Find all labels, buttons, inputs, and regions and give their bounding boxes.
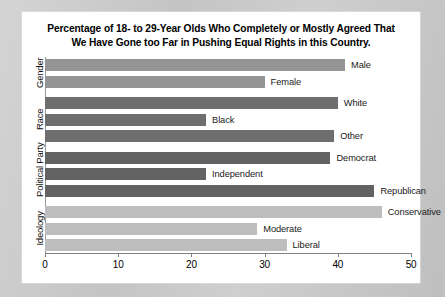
x-tick-label: 10 <box>113 259 124 270</box>
x-tick-label: 20 <box>186 259 197 270</box>
bar-white[interactable] <box>45 97 338 109</box>
bar-democrat[interactable] <box>45 152 330 164</box>
bar-label-liberal: Liberal <box>293 240 320 250</box>
bar-label-male: Male <box>351 60 371 70</box>
x-tick-label: 0 <box>42 259 47 270</box>
x-tick-label: 30 <box>259 259 270 270</box>
bar-label-black: Black <box>212 115 234 125</box>
bar-label-conservative: Conservative <box>388 207 441 217</box>
bar-row: Black <box>45 114 411 126</box>
bar-conservative[interactable] <box>45 206 382 218</box>
bar-row: White <box>45 97 411 109</box>
bar-other[interactable] <box>45 130 334 142</box>
x-tick-label: 50 <box>406 259 417 270</box>
bar-label-female: Female <box>271 77 301 87</box>
x-tick <box>191 253 192 257</box>
bar-moderate[interactable] <box>45 223 257 235</box>
bar-liberal[interactable] <box>45 239 287 251</box>
plot-area: MaleFemaleWhiteBlackOtherDemocratIndepen… <box>45 57 411 253</box>
bar-row: Moderate <box>45 223 411 235</box>
group-label-political-party: Political Party <box>35 152 44 197</box>
bar-row: Male <box>45 59 411 71</box>
bar-row: Female <box>45 76 411 88</box>
chart-title-line-1: Percentage of 18- to 29-Year Olds Who Co… <box>36 22 406 36</box>
group-label-race: Race <box>35 97 44 142</box>
x-tick-label: 40 <box>332 259 343 270</box>
bar-row: Independent <box>45 168 411 180</box>
bar-row: Democrat <box>45 152 411 164</box>
bar-row: Conservative <box>45 206 411 218</box>
group-label-gender: Gender <box>35 59 44 88</box>
group-axis: GenderRacePolitical PartyIdeology <box>22 57 44 253</box>
bar-label-democrat: Democrat <box>336 153 376 163</box>
chart-panel: Percentage of 18- to 29-Year Olds Who Co… <box>22 12 420 283</box>
bar-row: Republican <box>45 185 411 197</box>
bar-black[interactable] <box>45 114 206 126</box>
x-tick <box>338 253 339 257</box>
x-tick <box>411 253 412 257</box>
x-axis-line <box>45 253 411 254</box>
bar-label-moderate: Moderate <box>263 224 301 234</box>
chart-title-line-2: We Have Gone too Far in Pushing Equal Ri… <box>36 36 406 50</box>
group-label-ideology: Ideology <box>35 206 44 251</box>
bar-label-other: Other <box>340 131 363 141</box>
chart-title: Percentage of 18- to 29-Year Olds Who Co… <box>36 22 406 49</box>
bar-row: Liberal <box>45 239 411 251</box>
bar-label-white: White <box>344 98 367 108</box>
bar-female[interactable] <box>45 76 265 88</box>
bar-label-republican: Republican <box>380 186 426 196</box>
bar-label-independent: Independent <box>212 169 263 179</box>
bar-male[interactable] <box>45 59 345 71</box>
bar-independent[interactable] <box>45 168 206 180</box>
bar-republican[interactable] <box>45 185 374 197</box>
bar-row: Other <box>45 130 411 142</box>
x-tick <box>45 253 46 257</box>
x-tick <box>118 253 119 257</box>
x-tick <box>265 253 266 257</box>
